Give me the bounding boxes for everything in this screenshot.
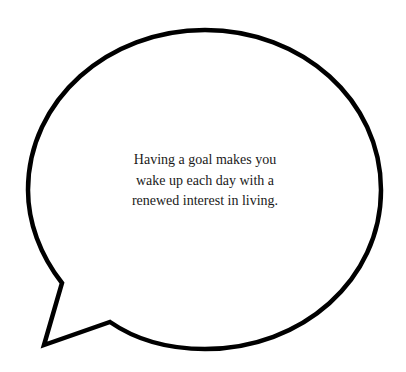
bubble-quote-text: Having a goal makes you wake up each day…: [120, 150, 290, 212]
